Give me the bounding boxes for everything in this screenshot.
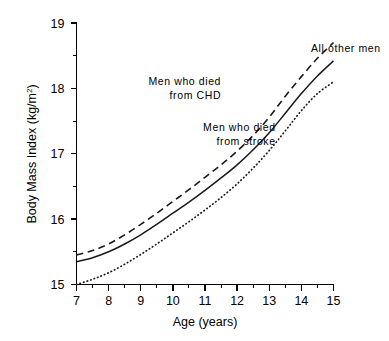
annotation-label: All other men [311, 42, 381, 54]
x-tick-label: 10 [166, 294, 180, 308]
chart-figure: 1516171819 789101112131415 Body Mass Ind… [0, 0, 389, 341]
bmi-by-age-line-chart: 1516171819 789101112131415 Body Mass Ind… [0, 0, 389, 341]
annotation-label: Men who died [203, 121, 276, 133]
y-tick-label: 17 [51, 147, 65, 161]
y-axis-title-text: Body Mass Index (kg/m [25, 93, 39, 224]
y-axis-title: Body Mass Index (kg/m2) [25, 84, 39, 223]
annotation-label: Men who died [148, 75, 221, 87]
y-tick-label: 19 [51, 17, 65, 31]
x-axis-tick-labels: 789101112131415 [73, 294, 340, 308]
x-tick-label: 14 [294, 294, 308, 308]
y-tick-label: 16 [51, 213, 65, 227]
x-tick-label: 13 [262, 294, 276, 308]
axes [76, 23, 334, 285]
annotation-label-line2: from CHD [170, 89, 221, 101]
x-axis-ticks [77, 285, 334, 291]
series-annotations: All other menMen who diedfrom CHDMen who… [148, 42, 380, 146]
y-axis-ticks [71, 23, 77, 285]
x-tick-label: 11 [199, 294, 212, 308]
x-tick-label: 15 [327, 294, 341, 308]
y-axis-title-tail: ) [25, 84, 39, 88]
annotation-label-line2: from stroke [217, 135, 276, 147]
y-tick-label: 15 [51, 278, 65, 292]
x-tick-label: 9 [137, 294, 144, 308]
x-tick-label: 8 [105, 294, 112, 308]
y-tick-label: 18 [51, 82, 65, 96]
y-axis-tick-labels: 1516171819 [51, 17, 65, 293]
x-tick-label: 12 [230, 294, 244, 308]
series-line-dotted [77, 82, 334, 285]
svg-text:Body Mass Index (kg/m2): Body Mass Index (kg/m2) [25, 84, 39, 223]
x-tick-label: 7 [73, 294, 80, 308]
x-axis-title: Age (years) [173, 315, 238, 329]
